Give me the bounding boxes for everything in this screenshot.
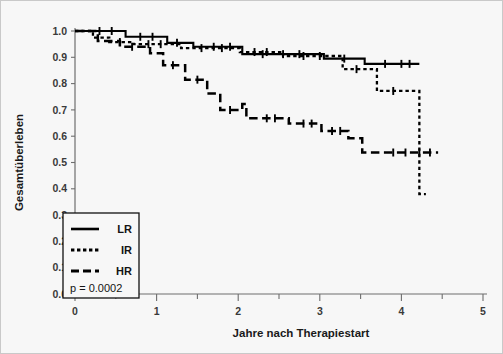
x-tick-label: 2 [235,305,241,317]
y-tick-label: 0.8 [52,77,67,89]
y-tick-label: 0.7 [52,104,67,116]
curve-ir [75,31,426,194]
legend-label-lr: LR [117,223,132,235]
legend-label-ir: IR [121,244,132,256]
x-tick-label: 1 [154,305,160,317]
x-tick-label: 4 [398,305,404,317]
y-tick-label: 0.5 [52,156,67,168]
x-tick-labels: 012345 [72,305,486,317]
p-value-annotation: p = 0.0002 [70,282,122,294]
x-tick-label: 0 [72,305,78,317]
y-tick-label: 0.6 [52,130,67,142]
x-tick-label: 5 [480,305,486,317]
x-axis-group: 012345 Jahre nach Therapiestart [72,294,487,339]
survival-curves [75,31,438,194]
y-tick-label: 0.9 [52,51,67,63]
x-axis-title: Jahre nach Therapiestart [233,327,370,339]
kaplan-meier-chart: 0.00.10.20.30.40.50.60.70.80.91.0 Gesamt… [1,1,503,354]
legend: LR IR HR p = 0.0002 [63,213,139,298]
y-axis-title: Gesamtüberleben [13,114,25,211]
x-tick-label: 3 [317,305,323,317]
legend-label-hr: HR [116,265,132,277]
curve-hr [75,31,438,153]
y-tick-label: 0.4 [52,182,67,194]
figure-container: 0.00.10.20.30.40.50.60.70.80.91.0 Gesamt… [0,0,503,354]
y-tick-label: 1.0 [52,25,67,37]
